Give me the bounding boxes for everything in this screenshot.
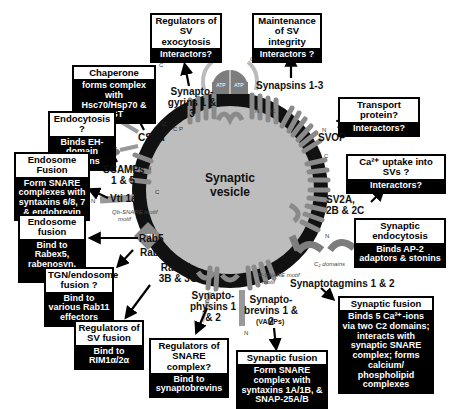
label-synaptophysins: Synapto- physins 1 & 2	[186, 290, 240, 323]
svg-text:N: N	[147, 165, 151, 171]
svg-text:motif: motif	[262, 279, 276, 285]
svg-text:C: C	[324, 153, 329, 159]
label-rab5: Rab5	[139, 233, 163, 244]
label-rab11: Rab11	[140, 247, 169, 258]
vesicle-title: Synaptic vesicle	[194, 172, 266, 200]
svg-text:C P: C P	[173, 126, 183, 132]
box-header: Regulators of SNARE complex?	[151, 340, 227, 373]
svg-text:C: C	[271, 108, 276, 114]
svg-text:C: C	[162, 121, 167, 127]
svg-text:C₂ domains: C₂ domains	[314, 261, 345, 267]
box-body: Interactors?	[348, 179, 444, 193]
label-rab3: Rab3A, 3B & 3C	[155, 262, 201, 284]
svg-text:N: N	[255, 108, 259, 114]
vesicle-title-line1: Synaptic	[194, 172, 266, 186]
box-body: Bind to synaptobrevins	[151, 373, 227, 396]
svg-text:Qb-SNARE motif: Qb-SNARE motif	[112, 209, 159, 215]
box-body: Form SNARE complexes with syntaxins 6/8,…	[16, 177, 88, 220]
box-header: TGN/endosome fusion ?	[46, 269, 112, 292]
label-csp: CSPα	[138, 132, 165, 143]
label-sv2: SV2A, 2B & 2C	[326, 194, 370, 216]
box-body: Interactors?	[340, 122, 418, 136]
svg-text:N: N	[244, 330, 248, 336]
box-header: Ca²⁺ uptake into SVs ?	[348, 156, 444, 179]
box-header: Synaptic endocytosis	[356, 220, 444, 243]
box-body: Form SNARE complex with syntaxins 1A/1B,…	[238, 364, 326, 407]
label-svop: SVOP	[318, 132, 346, 143]
box-transport-protein: Transport protein? Interactors?	[338, 97, 420, 137]
box-body: Binds 5 Ca²⁺-ions via two C2 domains; in…	[340, 310, 432, 392]
svg-text:N: N	[325, 233, 329, 239]
box-body: Interactors?	[152, 48, 220, 62]
box-synaptic-fusion-syt: Synaptic fusion Binds 5 Ca²⁺-ions via tw…	[338, 296, 434, 394]
box-maintenance-integrity: Maintenance of SV integrity Interactors …	[252, 13, 322, 63]
label-vti1a: Vti 1aβ	[110, 193, 143, 204]
vesicle-title-line2: vesicle	[194, 186, 266, 200]
box-ca-uptake: Ca²⁺ uptake into SVs ? Interactors?	[346, 154, 446, 194]
box-header: Regulators of SV exocytosis	[152, 15, 220, 48]
box-header: Regulators of SV fusion	[76, 322, 142, 345]
label-synaptogyrins: Synapto- gyrins 1 & 3	[167, 86, 217, 119]
box-header: Endocytosis ?	[50, 113, 114, 136]
label-vamps: (VAMPs)	[256, 318, 284, 326]
label-scamps: SCAMPs 1 & 5	[103, 164, 143, 186]
box-synaptic-fusion-vamp: Synaptic fusion Form SNARE complex with …	[236, 350, 328, 409]
box-header: Synaptic fusion	[238, 352, 326, 364]
box-body: Binds AP-2 adaptors & stonins	[356, 243, 444, 266]
svg-text:ATP: ATP	[216, 82, 226, 88]
box-regulators-sv-fusion: Regulators of SV fusion Bind to RIM1α/2α	[74, 320, 144, 370]
synapsin-atp-icon: ATP ATP	[212, 70, 248, 94]
box-header: Maintenance of SV integrity	[254, 15, 320, 48]
box-header: Transport protein?	[340, 99, 418, 122]
box-header: Synaptic fusion	[340, 298, 432, 310]
box-body: Interactors ?	[254, 48, 320, 62]
box-regulators-exocytosis: Regulators of SV exocytosis Interactors?	[150, 13, 222, 63]
box-header: Chaperone	[74, 67, 154, 79]
box-header: Endosome Fusion	[16, 154, 88, 177]
box-body: Bind to RIM1α/2α	[76, 345, 142, 368]
label-synapsins: Synapsins 1-3	[256, 80, 323, 91]
box-synaptic-endocytosis: Synaptic endocytosis Binds AP-2 adaptors…	[354, 218, 446, 268]
svg-text:C: C	[155, 189, 160, 195]
box-tgn-endosome: TGN/endosome fusion ? Bind to various Ra…	[44, 267, 114, 327]
box-endosome-fusion-1: Endosome Fusion Form SNARE complexes wit…	[14, 152, 90, 221]
box-header: Endosome fusion	[20, 216, 84, 239]
box-regulators-snare: Regulators of SNARE complex? Bind to syn…	[149, 338, 229, 398]
svg-text:motif: motif	[118, 216, 132, 222]
svg-text:N: N	[91, 198, 95, 204]
svg-text:ATP: ATP	[234, 82, 244, 88]
label-synaptotagmins: Synaptotagmins 1 & 2	[290, 278, 394, 289]
